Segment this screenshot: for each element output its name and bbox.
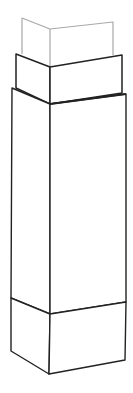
stacked-box-drawing <box>0 0 133 393</box>
diagram-canvas <box>0 0 133 393</box>
main-shaft <box>11 88 126 314</box>
